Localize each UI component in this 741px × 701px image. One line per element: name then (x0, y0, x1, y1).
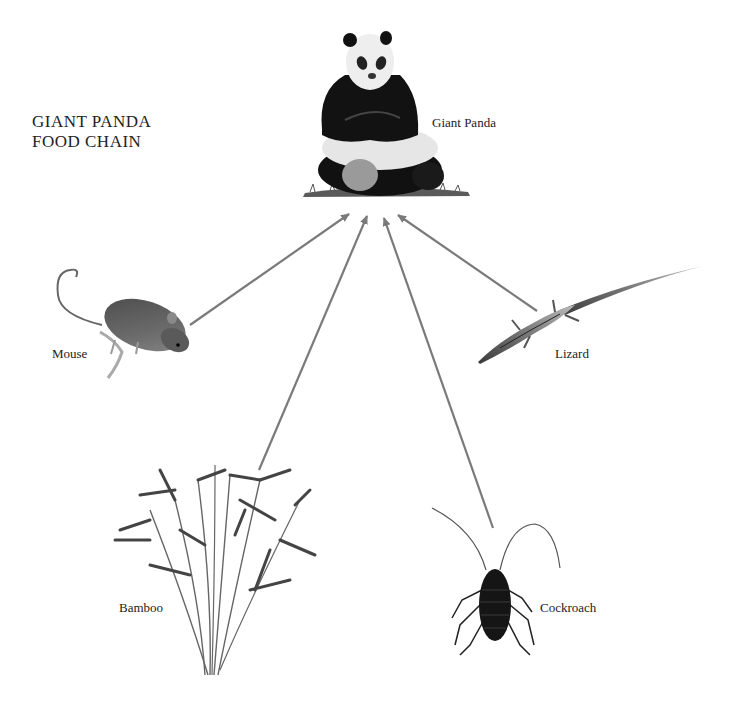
food-chain-diagram (0, 0, 741, 701)
label-mouse: Mouse (52, 346, 87, 362)
cockroach-illustration (432, 508, 560, 655)
diagram-title: GIANT PANDA FOOD CHAIN (32, 112, 151, 152)
label-cockroach: Cockroach (540, 600, 596, 616)
label-giant-panda: Giant Panda (432, 115, 496, 131)
label-bamboo: Bamboo (119, 600, 163, 616)
arrow-mouse-to-panda (190, 214, 349, 325)
panda-illustration (303, 31, 470, 197)
arrow-cockroach-to-panda (384, 218, 493, 528)
arrows (190, 214, 537, 528)
lizard-illustration (478, 266, 703, 364)
arrow-lizard-to-panda (398, 215, 537, 311)
title-line-1: GIANT PANDA (32, 112, 151, 132)
label-lizard: Lizard (555, 346, 589, 362)
arrow-bamboo-to-panda (259, 216, 367, 470)
bamboo-illustration (115, 465, 315, 675)
title-line-2: FOOD CHAIN (32, 132, 151, 152)
